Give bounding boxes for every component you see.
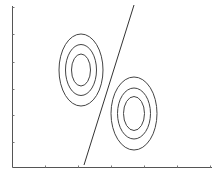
contour-ellipse [118,88,151,139]
contour-ellipse [66,45,97,96]
contour-ellipse [72,54,91,86]
cluster-class-b [111,77,157,150]
decision-boundary-line [84,5,134,165]
class-contours [59,34,157,150]
cluster-class-a [59,34,103,106]
contour-ellipse [124,97,145,131]
axes [13,6,213,168]
decision-boundary-diagram [0,0,220,174]
